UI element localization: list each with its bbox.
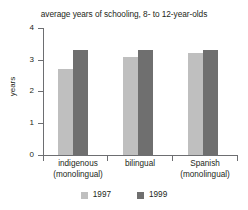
bar-spanish-1997 (188, 53, 203, 155)
bar-chart: average years of schooling, 8- to 12-yea… (0, 0, 248, 210)
legend-item-1997[interactable]: 1997 (81, 191, 111, 199)
x-category-label-spanish: Spanish (monolingual) (159, 158, 248, 180)
y-tick-label-1: 1 (8, 119, 34, 127)
plot-area (43, 28, 237, 155)
y-tick-label-2: 2 (8, 87, 34, 95)
bar-spanish-1999 (203, 50, 218, 155)
bar-indigenous-1997 (58, 69, 73, 155)
y-tick-label-0: 0 (8, 151, 34, 159)
legend-label-1999: 1999 (149, 191, 167, 199)
legend-swatch-icon-1997 (81, 192, 88, 199)
legend-item-1999[interactable]: 1999 (137, 191, 167, 199)
chart-title: average years of schooling, 8- to 12-yea… (0, 9, 248, 19)
bar-indigenous-1999 (73, 50, 88, 155)
legend-label-1997: 1997 (93, 191, 111, 199)
x-category-label-spanish-line2: (monolingual) (159, 169, 248, 180)
x-axis-line (43, 155, 238, 156)
chart-legend: 1997 1999 (0, 191, 248, 199)
x-category-label-indigenous-line2: (monolingual) (32, 169, 124, 180)
legend-swatch-icon-1999 (137, 192, 144, 199)
y-tick-label-4: 4 (8, 24, 34, 32)
bar-bilingual-1999 (138, 50, 153, 155)
y-tick-label-3: 3 (8, 56, 34, 64)
bar-bilingual-1997 (123, 57, 138, 155)
x-category-label-spanish-line1: Spanish (159, 158, 248, 169)
